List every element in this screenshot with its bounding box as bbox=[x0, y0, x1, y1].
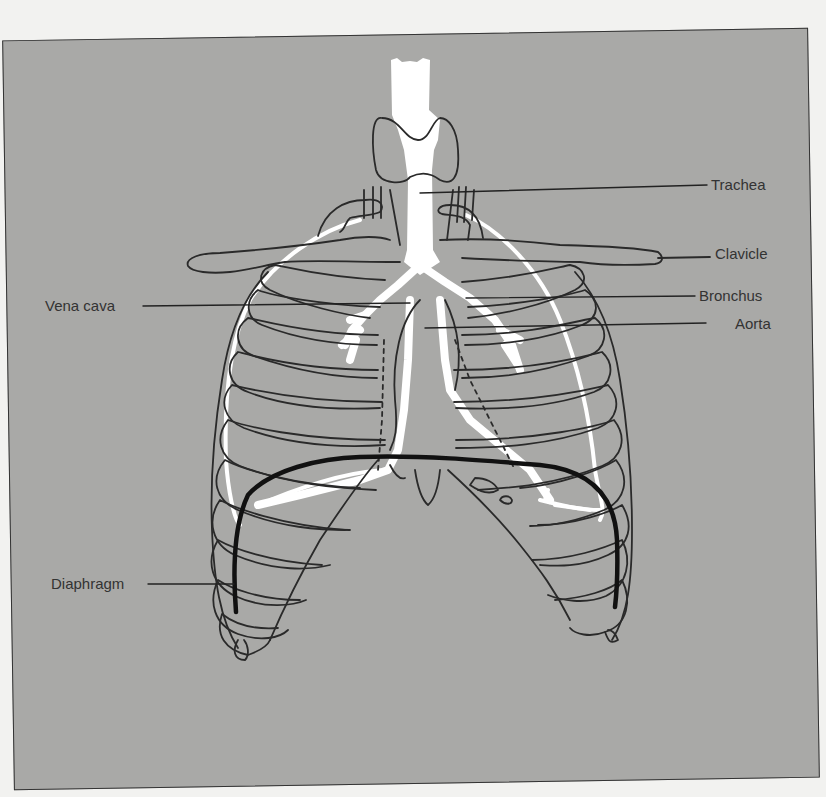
bronchi-vessels-white bbox=[258, 265, 550, 505]
thorax-illustration bbox=[0, 0, 826, 797]
clavicle-right bbox=[440, 239, 662, 265]
label-diaphragm: Diaphragm bbox=[51, 576, 124, 592]
label-clavicle: Clavicle bbox=[715, 246, 768, 262]
trachea-shape bbox=[391, 58, 440, 275]
label-bronchus: Bronchus bbox=[699, 288, 762, 304]
label-vena-cava: Vena cava bbox=[45, 298, 115, 314]
xiphoid bbox=[415, 470, 440, 505]
diagram-stage: Trachea Clavicle Vena cava Bronchus Aort… bbox=[0, 0, 826, 797]
ribs-right bbox=[448, 265, 632, 642]
label-aorta: Aorta bbox=[735, 316, 771, 332]
label-trachea: Trachea bbox=[711, 177, 765, 193]
